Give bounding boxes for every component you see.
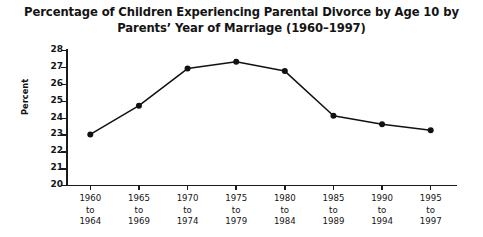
x-tick-mark bbox=[333, 185, 334, 190]
x-tick-label-line: 1995 bbox=[401, 193, 461, 205]
data-point: 1965 to 1969: 24.7 bbox=[136, 103, 142, 109]
x-tick-mark bbox=[90, 185, 91, 190]
x-tick-mark bbox=[430, 185, 431, 190]
y-tick-label: 20 bbox=[50, 179, 63, 189]
chart-title-line-2: Parents’ Year of Marriage (1960–1997) bbox=[0, 21, 483, 37]
chart-title-line-1: Percentage of Children Experiencing Pare… bbox=[0, 5, 483, 21]
y-tick-label: 23 bbox=[50, 128, 63, 138]
plot-area: 202122232425262728 1960 to 1964: 231965 … bbox=[66, 50, 455, 185]
data-point: 1975 to 1979: 27.3 bbox=[233, 59, 239, 65]
y-tick-label: 22 bbox=[50, 145, 63, 155]
data-point: 1985 to 1989: 24.1 bbox=[330, 113, 336, 119]
x-tick-mark bbox=[138, 185, 139, 190]
y-axis-label: Percent bbox=[20, 55, 30, 115]
data-point: 1980 to 1984: 26.75 bbox=[282, 68, 288, 74]
data-point: 1995 to 1997: 23.25 bbox=[428, 127, 434, 133]
x-tick-label: 1995to1997 bbox=[401, 193, 461, 228]
y-tick-label: 26 bbox=[50, 78, 63, 88]
y-tick-label: 25 bbox=[50, 95, 63, 105]
data-point: 1970 to 1974: 26.9 bbox=[185, 66, 191, 72]
data-point: 1990 to 1994: 23.6 bbox=[379, 121, 385, 127]
x-tick-label-line: 1997 bbox=[401, 216, 461, 228]
y-tick-label: 27 bbox=[50, 61, 63, 71]
chart-title: Percentage of Children Experiencing Pare… bbox=[0, 5, 483, 36]
chart-figure: Percentage of Children Experiencing Pare… bbox=[0, 0, 483, 237]
x-tick-mark bbox=[284, 185, 285, 190]
x-tick-mark bbox=[381, 185, 382, 190]
x-tick-mark bbox=[187, 185, 188, 190]
y-tick-label: 28 bbox=[50, 44, 63, 54]
line-series: 1960 to 1964: 231965 to 1969: 24.71970 t… bbox=[66, 50, 455, 185]
y-tick-label: 21 bbox=[50, 162, 63, 172]
x-tick-mark bbox=[235, 185, 236, 190]
data-point: 1960 to 1964: 23 bbox=[87, 131, 93, 137]
y-tick-label: 24 bbox=[50, 112, 63, 122]
x-tick-label-line: to bbox=[401, 205, 461, 217]
